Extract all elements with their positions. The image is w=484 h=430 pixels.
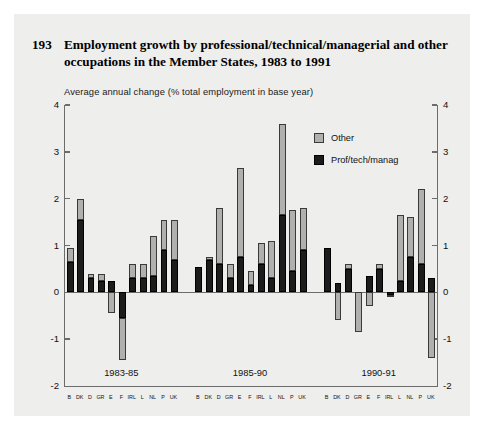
group-caption-1990-91: 1990-91 — [321, 367, 436, 378]
x-axis-label-1985-90-D: D — [214, 394, 224, 401]
y-tick-label-left-2: 2 — [39, 194, 59, 204]
x-axis-label-1983-85-NL: NL — [147, 394, 157, 401]
x-axis-label-1983-85-D: D — [85, 394, 95, 401]
bar-segment-prof-1983-85-NL — [150, 276, 157, 292]
bar-segment-other-1990-91-F — [376, 264, 383, 269]
bar-segment-other-1985-90-F — [248, 271, 255, 285]
x-axis-label-1990-91-E: E — [363, 394, 373, 401]
bar-1985-90-DK — [206, 105, 213, 386]
figure-title-row: 193 Employment growth by professional/te… — [32, 36, 452, 70]
bar-1983-85-D — [88, 105, 95, 386]
chart-subtitle: Average annual change (% total employmen… — [64, 86, 313, 97]
bar-1985-90-P — [289, 105, 296, 386]
bar-1983-85-B — [67, 105, 74, 386]
x-axis-label-1983-85-B: B — [64, 394, 74, 401]
x-axis-label-1985-90-L: L — [266, 394, 276, 401]
bar-segment-other-1983-85-B — [67, 248, 74, 262]
bar-segment-other-1985-90-NL — [279, 124, 286, 215]
x-axis-label-1983-85-UK: UK — [168, 394, 178, 401]
y-tick-label-left-1: 1 — [39, 241, 59, 251]
bar-segment-other-1990-91-E — [366, 292, 373, 306]
x-axis-label-1983-85-E: E — [106, 394, 116, 401]
y-tick-label-left--1: -1 — [39, 334, 59, 344]
bar-segment-other-1983-85-GR — [98, 274, 105, 281]
x-axis-label-1990-91-F: F — [373, 394, 383, 401]
bar-segment-prof-1985-90-UK — [300, 250, 307, 292]
bar-segment-other-1985-90-DK — [206, 257, 213, 259]
legend-label-other: Other — [331, 133, 354, 143]
bar-segment-other-1983-85-F — [119, 318, 126, 360]
bar-segment-prof-1985-90-L — [268, 278, 275, 292]
bar-segment-other-1990-91-NL — [407, 217, 414, 257]
y-tick-label-right--2: -2 — [443, 381, 463, 391]
bar-segment-prof-1985-90-B — [195, 267, 202, 293]
bar-segment-other-1983-85-NL — [150, 236, 157, 276]
x-axis-label-1990-91-D: D — [342, 394, 352, 401]
bar-segment-prof-1983-85-E — [108, 281, 115, 293]
x-axis-label-1985-90-E: E — [234, 394, 244, 401]
bar-1983-85-NL — [150, 105, 157, 386]
bar-segment-other-1985-90-E — [237, 168, 244, 257]
bar-segment-prof-1990-91-NL — [407, 257, 414, 292]
bar-segment-prof-1990-91-B — [324, 248, 331, 292]
bar-segment-prof-1985-90-D — [216, 264, 223, 292]
bar-1983-85-IRL — [129, 105, 136, 386]
y-tick-label-right-1: 1 — [443, 241, 463, 251]
x-axis-label-1985-90-P: P — [286, 394, 296, 401]
bar-group-1983-85 — [65, 105, 180, 386]
bar-segment-other-1990-91-D — [345, 264, 352, 269]
x-axis-label-1985-90-UK: UK — [297, 394, 307, 401]
page-title: Employment growth by professional/techni… — [64, 36, 452, 70]
x-axis-label-1983-85-IRL: IRL — [127, 394, 137, 401]
bar-segment-prof-1990-91-P — [418, 264, 425, 292]
legend-swatch-prof — [314, 155, 324, 165]
x-axis-label-1990-91-NL: NL — [405, 394, 415, 401]
bar-segment-prof-1983-85-UK — [171, 260, 178, 293]
legend-item-prof: Prof/tech/manag — [314, 155, 398, 165]
bar-segment-other-1985-90-GR — [227, 264, 234, 278]
x-axis-label-1990-91-GR: GR — [353, 394, 363, 401]
y-tick-label-right-2: 2 — [443, 194, 463, 204]
bar-segment-prof-1990-91-E — [366, 276, 373, 292]
bar-1985-90-E — [237, 105, 244, 386]
x-axis-label-1990-91-P: P — [415, 394, 425, 401]
bar-segment-prof-1990-91-DK — [335, 283, 342, 292]
bar-1983-85-P — [161, 105, 168, 386]
bar-1985-90-NL — [279, 105, 286, 386]
bar-segment-prof-1983-85-B — [67, 262, 74, 292]
bar-1983-85-E — [108, 105, 115, 386]
bar-segment-prof-1983-85-IRL — [129, 278, 136, 292]
y-tick-label-left-3: 3 — [39, 147, 59, 157]
y-tick-label-left-4: 4 — [39, 100, 59, 110]
bar-segment-other-1983-85-L — [140, 264, 147, 278]
bar-1990-91-UK — [428, 105, 435, 386]
bar-segment-prof-1983-85-P — [161, 250, 168, 292]
bar-segment-other-1983-85-DK — [77, 199, 84, 220]
bar-1985-90-L — [268, 105, 275, 386]
group-caption-1983-85: 1983-85 — [64, 367, 179, 378]
y-tick-label-right-3: 3 — [443, 147, 463, 157]
bar-segment-other-1985-90-P — [289, 210, 296, 271]
bar-segment-prof-1985-90-GR — [227, 278, 234, 292]
x-axis-label-1983-85-P: P — [158, 394, 168, 401]
y-tick-label-right-0: 0 — [443, 287, 463, 297]
bar-1983-85-UK — [171, 105, 178, 386]
bar-segment-prof-1990-91-F — [376, 269, 383, 292]
bar-1983-85-L — [140, 105, 147, 386]
bar-segment-other-1983-85-E — [108, 292, 115, 313]
x-axis-label-1990-91-DK: DK — [332, 394, 342, 401]
bar-segment-prof-1983-85-D — [88, 278, 95, 292]
figure-panel: 193 Employment growth by professional/te… — [14, 14, 470, 416]
x-axis-label-1985-90-NL: NL — [276, 394, 286, 401]
x-axis-label-1985-90-GR: GR — [224, 394, 234, 401]
bar-segment-other-1985-90-IRL — [258, 243, 265, 264]
bar-segment-other-1990-91-GR — [355, 292, 362, 332]
y-tick-label-left--2: -2 — [39, 381, 59, 391]
bar-1990-91-P — [418, 105, 425, 386]
bar-segment-prof-1985-90-E — [237, 257, 244, 292]
x-axis-label-1990-91-UK: UK — [426, 394, 436, 401]
bar-1985-90-F — [248, 105, 255, 386]
figure-number: 193 — [32, 36, 52, 53]
x-axis-label-1983-85-DK: DK — [74, 394, 84, 401]
x-axis-label-1990-91-L: L — [394, 394, 404, 401]
